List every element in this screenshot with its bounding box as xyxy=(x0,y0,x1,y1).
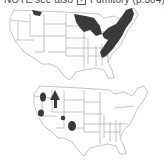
range-map-bottom xyxy=(30,84,164,156)
us-map-icon xyxy=(4,6,162,82)
range-map-top xyxy=(4,6,162,82)
note-reference: Fumitory (p.304). xyxy=(90,0,164,5)
note-text: NOTE see also × Fumitory (p.304). xyxy=(4,0,164,5)
checkbox-icon: × xyxy=(77,0,86,5)
note-prefix: NOTE see also xyxy=(4,0,73,5)
us-map-icon xyxy=(30,84,164,156)
